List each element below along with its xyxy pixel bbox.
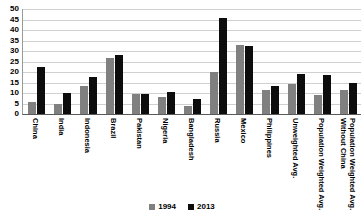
y-tick-label: 40	[10, 26, 19, 34]
bar	[132, 94, 140, 114]
x-tick-label: Mexico	[239, 118, 248, 143]
x-tick-label: Nigeria	[161, 118, 170, 143]
x-tick-label: Unweighted Avg.	[291, 118, 300, 178]
bar-group	[231, 9, 257, 114]
x-label-cell: Pakistan	[126, 116, 152, 206]
bar	[54, 104, 62, 115]
x-tick-label: India	[57, 118, 66, 136]
y-tick-label: 20	[10, 68, 19, 76]
bar-group	[335, 9, 361, 114]
x-tick-label: Russia	[213, 118, 222, 143]
bar	[115, 55, 123, 114]
y-tick-label: 5	[15, 100, 19, 108]
legend-label: 2013	[197, 203, 215, 211]
x-tick-label: Indonesia	[83, 118, 92, 153]
x-tick-label: Brazil	[109, 118, 118, 138]
x-label-cell: Indonesia	[74, 116, 100, 206]
x-label-cell: Mexico	[230, 116, 256, 206]
x-tick-label: Population Weighted Avg. Without China	[339, 118, 356, 210]
x-tick-label: China	[31, 118, 40, 139]
bar	[349, 83, 357, 115]
x-axis: ChinaIndiaIndonesiaBrazilPakistanNigeria…	[22, 116, 360, 206]
bar	[323, 75, 331, 114]
x-tick-label: Philippines	[265, 118, 274, 158]
x-label-cell: Brazil	[100, 116, 126, 206]
x-label-cell: Bangladesh	[178, 116, 204, 206]
bar	[167, 92, 175, 114]
x-tick-label: Population Weighted Avg.	[317, 118, 326, 210]
y-tick-label: 50	[10, 5, 19, 13]
bar	[89, 77, 97, 114]
y-tick-label: 30	[10, 47, 19, 55]
y-axis: 05101520253035404550	[0, 0, 22, 124]
y-tick-label: 35	[10, 37, 19, 45]
bar-group	[101, 9, 127, 114]
bar	[80, 86, 88, 114]
bar	[106, 58, 114, 114]
x-label-cell: Population Weighted Avg. Without China	[334, 116, 360, 206]
x-label-cell: Population Weighted Avg.	[308, 116, 334, 206]
bar-group	[283, 9, 309, 114]
y-tick-label: 10	[10, 89, 19, 97]
bar	[288, 84, 296, 114]
x-tick-label: Pakistan	[135, 118, 144, 149]
bar	[262, 90, 270, 114]
y-tick-label: 25	[10, 58, 19, 66]
legend-entry: 2013	[188, 203, 215, 211]
bar	[210, 72, 218, 114]
bar	[158, 97, 166, 114]
bar	[297, 74, 305, 114]
bar-group	[49, 9, 75, 114]
legend: 19942013	[0, 203, 364, 211]
bar-group	[127, 9, 153, 114]
bar-group	[153, 9, 179, 114]
bar-chart: 05101520253035404550 ChinaIndiaIndonesia…	[0, 0, 364, 224]
bar-group	[23, 9, 49, 114]
legend-swatch-icon	[149, 204, 155, 210]
bar-group	[179, 9, 205, 114]
bar	[37, 67, 45, 114]
bar	[236, 45, 244, 114]
x-label-cell: Nigeria	[152, 116, 178, 206]
bar-group	[205, 9, 231, 114]
legend-swatch-icon	[188, 204, 194, 210]
x-label-cell: Russia	[204, 116, 230, 206]
bar	[141, 94, 149, 114]
plot-area	[22, 9, 361, 115]
bar	[193, 99, 201, 114]
legend-entry: 1994	[149, 203, 176, 211]
bar-group	[257, 9, 283, 114]
bars-layer	[23, 9, 361, 114]
x-label-cell: Philippines	[256, 116, 282, 206]
bar	[219, 18, 227, 114]
legend-label: 1994	[158, 203, 176, 211]
bar	[28, 102, 36, 114]
bar	[184, 106, 192, 114]
bar	[340, 90, 348, 114]
bar	[63, 93, 71, 114]
x-label-cell: China	[22, 116, 48, 206]
y-tick-label: 0	[15, 110, 19, 118]
y-tick-label: 45	[10, 16, 19, 24]
x-label-cell: Unweighted Avg.	[282, 116, 308, 206]
x-label-cell: India	[48, 116, 74, 206]
bar	[245, 46, 253, 114]
bar-group	[309, 9, 335, 114]
bar	[271, 86, 279, 114]
y-tick-label: 15	[10, 79, 19, 87]
bar	[314, 95, 322, 114]
x-tick-label: Bangladesh	[187, 118, 196, 161]
bar-group	[75, 9, 101, 114]
